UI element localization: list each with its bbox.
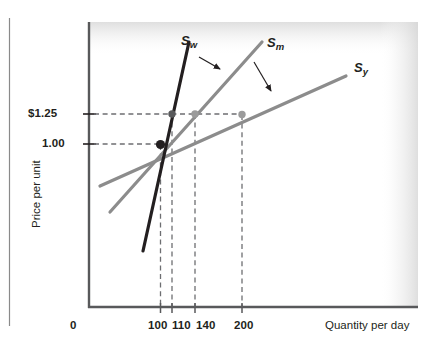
curve-label-sy: Sy [354,60,368,75]
curve-label-sm-base: S [267,35,276,50]
point-sy-200-1.25 [238,111,245,118]
point-sw-110-1.25 [168,110,175,117]
x-tick-label-100: 100 [148,319,168,331]
supply-curves-figure: $1.25 1.00 Price per unit 0 100 110 140 … [0,0,434,348]
arrow-sm-to-sy [254,62,271,91]
y-tick-label-125: $1.25 [28,107,57,119]
curve-sw [143,42,189,251]
arrow-sw-to-sm [199,57,220,69]
point-sm-140-1.25 [191,110,198,117]
curve-sy [100,76,346,186]
y-axis-title: Price per unit [30,160,42,228]
x-origin-label: 0 [70,319,77,331]
x-tick-label-200: 200 [234,319,254,331]
x-tick-label-110: 110 [172,319,191,331]
point-common-100-1.00 [156,140,165,149]
y-tick-label-100: 1.00 [42,137,65,149]
curve-sm [110,42,262,212]
chart-canvas [0,0,434,348]
curve-label-sy-base: S [354,60,363,75]
curve-label-sm-sub: m [276,41,284,52]
curve-label-sw-base: S [181,33,190,48]
curve-label-sw: Sw [181,33,197,48]
x-tick-label-140: 140 [196,319,216,331]
curve-label-sw-sub: w [190,39,197,50]
curve-label-sm: Sm [267,35,284,50]
plot-right-shading [380,22,418,308]
x-axis-title: Quantity per day [325,319,409,331]
curve-label-sy-sub: y [363,66,368,77]
